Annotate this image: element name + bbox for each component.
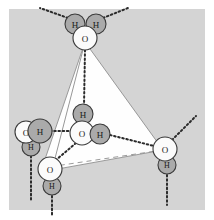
- right-water-molecule-label-o-1: O: [162, 145, 169, 155]
- bottom-water-molecule-label-h-0: H: [49, 182, 55, 191]
- left-water-molecule-label-h-2: H: [37, 127, 44, 137]
- center-water-molecule-label-h-0: H: [80, 110, 87, 120]
- top-water-molecule-label-h-1: H: [93, 20, 100, 30]
- center-water-molecule-label-h-2: H: [97, 130, 104, 140]
- bottom-water-molecule-label-o-1: O: [47, 165, 54, 175]
- tetrahedral-water-diagram: HHOHOHHOHHOHO: [0, 0, 214, 220]
- top-water-molecule-label-o-2: O: [82, 34, 89, 44]
- water-cluster-figure: HHOHOHHOHHOHO: [0, 0, 214, 220]
- left-water-molecule-label-h-0: H: [28, 143, 34, 152]
- center-water-molecule-label-o-1: O: [79, 129, 86, 139]
- right-water-molecule-label-h-0: H: [164, 161, 170, 170]
